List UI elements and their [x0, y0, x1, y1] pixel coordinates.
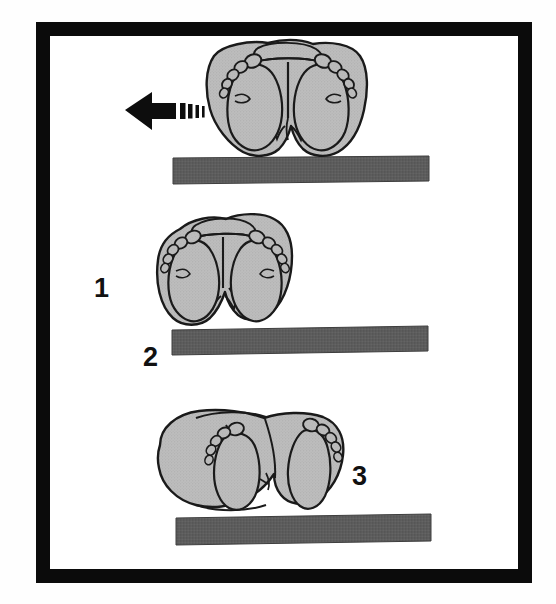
stage-label-2: 2 — [143, 344, 158, 371]
figure-root: 1 2 3 — [0, 0, 556, 604]
stage-label-1: 1 — [94, 275, 109, 302]
stage-label-3: 3 — [352, 463, 367, 490]
frame-inner-canvas — [50, 36, 518, 569]
illustration-frame — [36, 22, 532, 583]
